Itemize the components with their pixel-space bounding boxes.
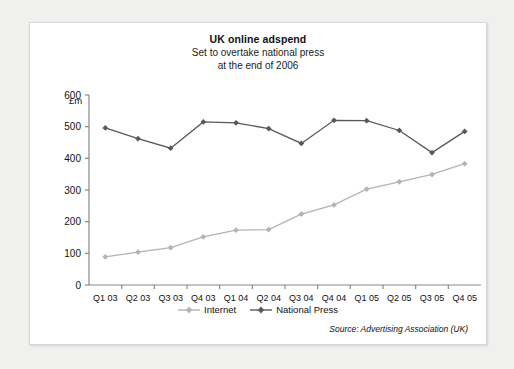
data-point-marker — [200, 234, 206, 240]
x-axis-tick-label: Q2 03 — [126, 293, 151, 303]
x-axis-tick-label: Q3 04 — [289, 293, 314, 303]
legend-label-national-press: National Press — [276, 304, 338, 315]
series-line-national-press — [105, 120, 464, 152]
data-point-marker — [364, 118, 370, 124]
y-axis-tick-label: 100 — [64, 248, 81, 259]
y-axis-tick-label: 300 — [64, 185, 81, 196]
legend-item-national-press[interactable]: National Press — [250, 304, 338, 315]
y-axis-tick-label: 0 — [75, 280, 81, 291]
data-point-marker — [168, 245, 174, 251]
x-axis-tick-label: Q1 05 — [354, 293, 379, 303]
y-axis-tick-label: 600 — [64, 90, 81, 101]
y-axis-tick-label: 500 — [64, 121, 81, 132]
data-point-marker — [135, 136, 141, 142]
chart-card: UK online adspend Set to overtake nation… — [29, 22, 487, 345]
data-point-marker — [462, 161, 468, 167]
legend-marker-national-press-icon — [250, 305, 272, 315]
data-point-marker — [266, 126, 272, 132]
y-axis-tick-label: 200 — [64, 216, 81, 227]
data-point-marker — [102, 125, 108, 131]
line-chart-svg: 0100200300400500600Q1 03Q2 03Q3 03Q4 03Q… — [30, 23, 488, 346]
series-line-internet — [105, 164, 464, 257]
data-point-marker — [266, 227, 272, 233]
x-axis-tick-label: Q4 04 — [322, 293, 347, 303]
data-point-marker — [396, 179, 402, 185]
screenshot-root: UK online adspend Set to overtake nation… — [0, 0, 514, 369]
x-axis-tick-label: Q3 05 — [420, 293, 445, 303]
source-note: Source: Advertising Association (UK) — [329, 324, 468, 334]
data-point-marker — [331, 202, 337, 208]
x-axis-tick-label: Q3 03 — [158, 293, 183, 303]
x-axis-tick-label: Q1 04 — [224, 293, 249, 303]
data-point-marker — [364, 186, 370, 192]
legend-item-internet[interactable]: Internet — [178, 304, 236, 315]
x-axis-tick-label: Q2 05 — [387, 293, 412, 303]
legend-label-internet: Internet — [204, 304, 236, 315]
legend-marker-internet-icon — [178, 305, 200, 315]
data-point-marker — [429, 172, 435, 178]
data-point-marker — [135, 249, 141, 255]
x-axis-tick-label: Q4 05 — [452, 293, 477, 303]
data-point-marker — [233, 120, 239, 126]
x-axis-tick-label: Q4 03 — [191, 293, 216, 303]
chart-legend: Internet National Press — [30, 304, 486, 315]
data-point-marker — [102, 254, 108, 260]
y-axis-tick-label: 400 — [64, 153, 81, 164]
data-point-marker — [233, 227, 239, 233]
x-axis-tick-label: Q1 03 — [93, 293, 118, 303]
data-point-marker — [298, 211, 304, 217]
x-axis-tick-label: Q2 04 — [256, 293, 281, 303]
chart-plot-area: 0100200300400500600Q1 03Q2 03Q3 03Q4 03Q… — [30, 23, 488, 346]
